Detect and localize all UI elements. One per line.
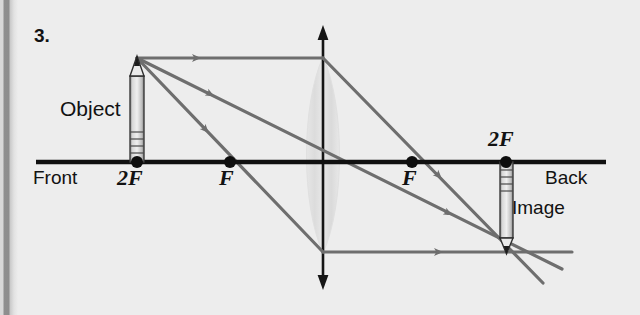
axis-label-f-right: F (402, 167, 417, 189)
image-base-point (500, 156, 512, 168)
axis-label-2f-right: 2F (488, 128, 514, 150)
ray-center-arrow-1 (208, 93, 210, 94)
ray-parallel-outgoing-arrow (437, 174, 438, 175)
ray-focal-incoming (137, 58, 323, 252)
figure-container: 3. Object Front Back Image 2F F F 2F (0, 0, 640, 315)
object-label: Object (60, 98, 121, 119)
object-pencil (130, 56, 144, 168)
front-label: Front (33, 168, 77, 187)
axis-label-2f-left: 2F (117, 167, 143, 189)
lens-axis-arrow-up (318, 25, 329, 40)
image-label: Image (512, 198, 565, 217)
figure-number-label: 3. (34, 26, 50, 45)
back-label: Back (545, 168, 587, 187)
axis-label-f-left: F (219, 167, 234, 189)
ray-diagram-svg (0, 0, 640, 315)
lens-axis-arrow-down (318, 275, 329, 290)
ray-focal-incoming-arrow (204, 128, 205, 129)
ray-center-arrow-2 (446, 212, 448, 213)
